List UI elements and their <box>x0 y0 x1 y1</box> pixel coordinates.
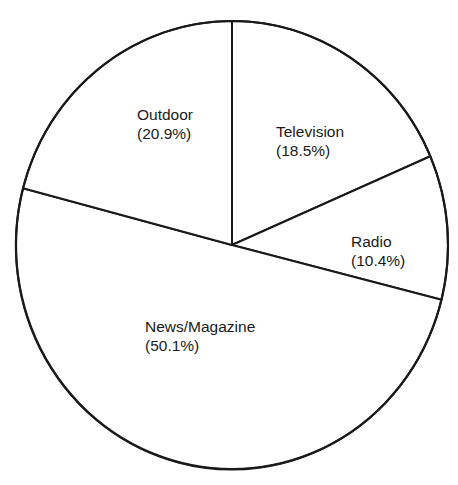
label-television-name: Television <box>276 122 344 141</box>
label-news-magazine-pct: (50.1%) <box>145 336 255 355</box>
label-radio: Radio (10.4%) <box>351 232 405 270</box>
label-outdoor: Outdoor (20.9%) <box>137 105 193 143</box>
label-news-magazine: News/Magazine (50.1%) <box>145 317 255 355</box>
label-television: Television (18.5%) <box>276 122 344 160</box>
label-television-pct: (18.5%) <box>276 141 344 160</box>
label-radio-pct: (10.4%) <box>351 251 405 270</box>
label-outdoor-name: Outdoor <box>137 105 193 124</box>
label-outdoor-pct: (20.9%) <box>137 124 193 143</box>
label-news-magazine-name: News/Magazine <box>145 317 255 336</box>
label-radio-name: Radio <box>351 232 405 251</box>
